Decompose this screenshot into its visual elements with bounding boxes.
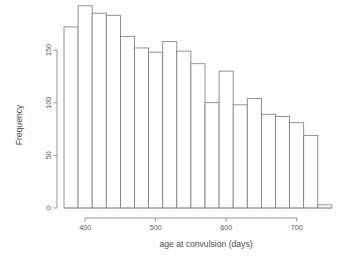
histogram-bar (106, 15, 120, 208)
histogram-bar (233, 105, 247, 208)
histogram-bar (276, 116, 290, 208)
x-axis: 400500600700 (79, 218, 303, 232)
histogram-bar (318, 205, 332, 208)
y-axis-title: Frequency (14, 104, 24, 145)
histogram-bar (247, 98, 261, 208)
histogram-bar (92, 13, 106, 208)
histogram-bar (78, 6, 92, 208)
histogram-bar (177, 51, 191, 208)
histogram-bar (163, 42, 177, 208)
histogram-bar (120, 36, 134, 208)
y-axis: 050100150 (44, 44, 57, 210)
y-axis-tick-label: 0 (44, 206, 53, 210)
y-axis-tick-label: 150 (44, 44, 53, 56)
x-axis-title: age at convulsion (days) (159, 239, 252, 249)
x-axis-tick-label: 700 (291, 223, 303, 232)
histogram-bar (219, 71, 233, 208)
histogram-bar (149, 52, 163, 208)
histogram-figure: 050100150 400500600700 age at convulsion… (0, 0, 353, 262)
y-axis-tick-label: 100 (44, 97, 53, 109)
histogram-bar (290, 123, 304, 208)
histogram-plot-area: 050100150 400500600700 age at convulsion… (0, 0, 353, 262)
y-axis-tick-label: 50 (44, 151, 53, 159)
histogram-bar (64, 27, 78, 208)
histogram-bar (135, 48, 149, 208)
histogram-bar (261, 114, 275, 208)
x-axis-tick-label: 400 (79, 223, 91, 232)
x-axis-tick-label: 600 (220, 223, 232, 232)
x-axis-tick-label: 500 (150, 223, 162, 232)
histogram-bar (191, 64, 205, 208)
histogram-bar (304, 135, 318, 208)
histogram-bars (64, 6, 332, 208)
histogram-bar (205, 103, 219, 208)
